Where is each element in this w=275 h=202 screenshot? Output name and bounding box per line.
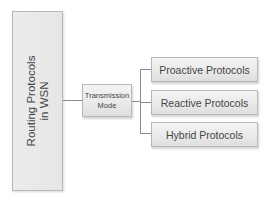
root-node-routing-protocols-in-wsn: Routing Protocols in WSN <box>12 11 63 191</box>
connector-bus-to-proactive <box>140 69 151 70</box>
connector-root-to-mode <box>63 100 82 101</box>
node-transmission-mode: Transmission Mode <box>82 84 132 117</box>
mode-label-line2: Mode <box>98 101 117 111</box>
node-hybrid-protocols: Hybrid Protocols <box>151 122 258 147</box>
root-label-line2: in WSN <box>38 56 51 147</box>
leaf-label: Proactive Protocols <box>159 64 249 76</box>
root-label-line1: Routing Protocols <box>25 56 38 147</box>
node-proactive-protocols: Proactive Protocols <box>151 57 258 82</box>
node-reactive-protocols: Reactive Protocols <box>151 90 258 115</box>
leaf-label: Hybrid Protocols <box>166 129 243 141</box>
connector-bus-to-hybrid <box>140 133 151 134</box>
leaf-label: Reactive Protocols <box>161 97 249 109</box>
root-node-label: Routing Protocols in WSN <box>25 56 51 147</box>
connector-bus-to-reactive <box>140 102 151 103</box>
mode-label-line1: Transmission <box>85 91 129 101</box>
